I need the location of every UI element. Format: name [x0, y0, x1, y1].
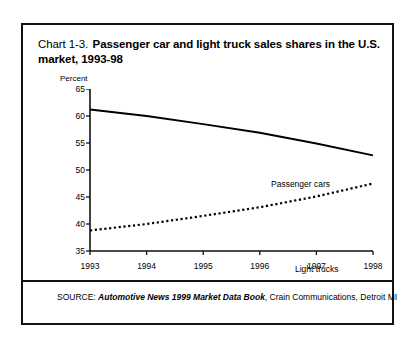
y-axis-tick-label: 55 [69, 138, 85, 148]
source-prefix: SOURCE: [57, 292, 96, 302]
y-axis-tick-label: 50 [69, 165, 85, 175]
y-axis-tick-label: 40 [69, 219, 85, 229]
source-divider [23, 280, 392, 282]
chart-figure-frame: Chart 1-3. Passenger car and light truck… [21, 23, 394, 325]
source-suffix: , Crain Communications, Detroit MI [265, 292, 397, 302]
y-axis-tick-label: 65 [69, 84, 85, 94]
series-label-light-trucks: Light trucks [295, 264, 338, 274]
axis-group [90, 89, 373, 251]
y-axis-tick-label: 45 [69, 192, 85, 202]
x-axis-tick-label: 1998 [356, 261, 390, 271]
plot-area: 35404550556065 199319941995199619971998 … [69, 89, 381, 289]
source-note: SOURCE: Automotive News 1999 Market Data… [57, 292, 397, 302]
chart-title-text: Passenger car and light truck sales shar… [38, 38, 380, 65]
series-line-passenger-cars [90, 110, 373, 156]
source-publication: Automotive News 1999 Market Data Book [98, 292, 265, 302]
x-axis-tick-label: 1993 [73, 261, 107, 271]
chart-title-number: Chart 1-3. [38, 38, 88, 50]
y-axis-tick-label: 35 [69, 246, 85, 256]
chart-title: Chart 1-3. Passenger car and light truck… [38, 36, 382, 66]
x-axis-tick-label: 1995 [186, 261, 220, 271]
x-axis-tick-label: 1994 [130, 261, 164, 271]
y-axis-unit-label: Percent [60, 74, 88, 83]
series-label-passenger-cars: Passenger cars [271, 179, 330, 189]
chart-canvas [69, 89, 381, 289]
y-axis-tick-label: 60 [69, 111, 85, 121]
series-line-light-trucks [90, 184, 373, 231]
x-axis-tick-label: 1996 [243, 261, 277, 271]
